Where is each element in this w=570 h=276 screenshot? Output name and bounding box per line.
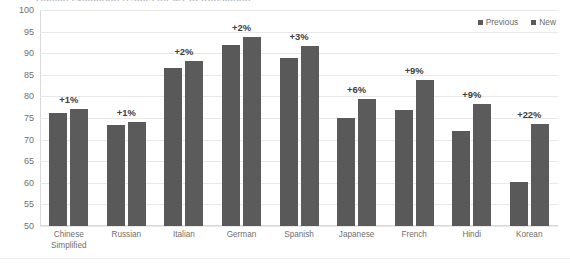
bar-group: +2% — [155, 10, 213, 226]
plot-area: +1%+1%+2%+2%+3%+6%+9%+9%+22% — [40, 10, 558, 226]
y-axis-tick-label: 55 — [24, 199, 34, 209]
bar-group: +1% — [98, 10, 156, 226]
bars — [270, 10, 328, 226]
bars — [328, 10, 386, 226]
x-axis-category-label: Hindi — [443, 230, 501, 251]
x-axis-category-label: ChineseSimplified — [40, 230, 98, 251]
y-axis-labels: 10095908580757065605550 — [0, 10, 34, 226]
bar-new[interactable] — [70, 109, 88, 226]
bar-new[interactable] — [531, 124, 549, 226]
x-axis-category-label: Japanese — [328, 230, 386, 251]
bar-previous[interactable] — [222, 45, 240, 226]
bar-group: +1% — [40, 10, 98, 226]
x-axis-category-label: Italian — [155, 230, 213, 251]
bar-new[interactable] — [243, 37, 261, 226]
y-axis-tick-label: 100 — [19, 5, 34, 15]
bar-new[interactable] — [358, 99, 376, 226]
x-axis-category-label: Spanish — [270, 230, 328, 251]
bar-group: +9% — [443, 10, 501, 226]
y-axis-tick-label: 80 — [24, 91, 34, 101]
bar-group: +22% — [501, 10, 559, 226]
gridline — [40, 226, 558, 227]
bars — [501, 10, 559, 226]
bar-previous[interactable] — [395, 110, 413, 226]
bar-groups: +1%+1%+2%+2%+3%+6%+9%+9%+22% — [40, 10, 558, 226]
bar-previous[interactable] — [280, 58, 298, 226]
y-axis-tick-label: 50 — [24, 221, 34, 231]
y-axis-tick-label: 60 — [24, 178, 34, 188]
y-axis-tick-label: 85 — [24, 70, 34, 80]
bar-group: +9% — [385, 10, 443, 226]
bar-new[interactable] — [128, 122, 146, 226]
x-axis-category-label: German — [213, 230, 271, 251]
bars — [443, 10, 501, 226]
bar-group: +2% — [213, 10, 271, 226]
bar-new[interactable] — [185, 61, 203, 226]
bar-group: +3% — [270, 10, 328, 226]
bar-previous[interactable] — [452, 131, 470, 226]
bars — [98, 10, 156, 226]
y-axis-tick-label: 90 — [24, 48, 34, 58]
bar-previous[interactable] — [164, 68, 182, 226]
x-axis-labels: ChineseSimplifiedRussianItalianGermanSpa… — [40, 230, 558, 251]
bar-previous[interactable] — [107, 125, 125, 226]
bars — [155, 10, 213, 226]
bar-previous[interactable] — [510, 182, 528, 226]
bars — [40, 10, 98, 226]
y-axis-tick-label: 65 — [24, 156, 34, 166]
x-axis-category-label: Russian — [98, 230, 156, 251]
chart-container: Human evaluation results for MT of trans… — [0, 0, 570, 276]
bar-new[interactable] — [473, 104, 491, 226]
chart-title: Human evaluation results for MT of trans… — [36, 0, 251, 1]
y-axis-tick-label: 95 — [24, 27, 34, 37]
bars — [213, 10, 271, 226]
bar-previous[interactable] — [337, 118, 355, 226]
x-axis-category-label: Korean — [501, 230, 559, 251]
bar-new[interactable] — [301, 46, 319, 226]
bar-new[interactable] — [416, 80, 434, 226]
x-axis-category-label: French — [385, 230, 443, 251]
y-axis-tick-label: 75 — [24, 113, 34, 123]
bars — [385, 10, 443, 226]
bottom-divider — [0, 258, 570, 259]
bar-group: +6% — [328, 10, 386, 226]
y-axis-tick-label: 70 — [24, 135, 34, 145]
bar-previous[interactable] — [49, 113, 67, 226]
